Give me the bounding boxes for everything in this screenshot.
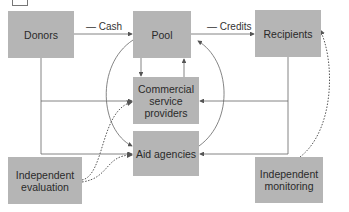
node-evaluation-label-2: evaluation: [21, 181, 69, 193]
node-pool-label: Pool: [151, 29, 172, 41]
node-independent-evaluation: Independent evaluation: [8, 157, 82, 204]
edge-label-cash: — Cash: [86, 21, 122, 32]
node-commercial-service-providers: Commercial service providers: [133, 77, 199, 124]
edge-label-credits: — Credits: [207, 21, 251, 32]
node-monitoring-label-2: monitoring: [264, 180, 313, 192]
node-independent-monitoring: Independent monitoring: [255, 157, 323, 203]
node-aid-agencies-label: Aid agencies: [136, 148, 196, 160]
node-evaluation-label-1: Independent: [16, 169, 74, 181]
node-aid-agencies: Aid agencies: [133, 131, 199, 176]
node-donors-label: Donors: [24, 29, 58, 41]
node-donors: Donors: [8, 11, 74, 58]
node-commercial-label-3: providers: [144, 107, 187, 119]
node-monitoring-label-1: Independent: [260, 168, 318, 180]
node-pool: Pool: [133, 11, 191, 58]
node-commercial-label-1: Commercial: [138, 83, 194, 95]
node-recipients-label: Recipients: [263, 28, 312, 40]
node-recipients: Recipients: [255, 10, 321, 57]
node-commercial-label-2: service: [149, 95, 182, 107]
